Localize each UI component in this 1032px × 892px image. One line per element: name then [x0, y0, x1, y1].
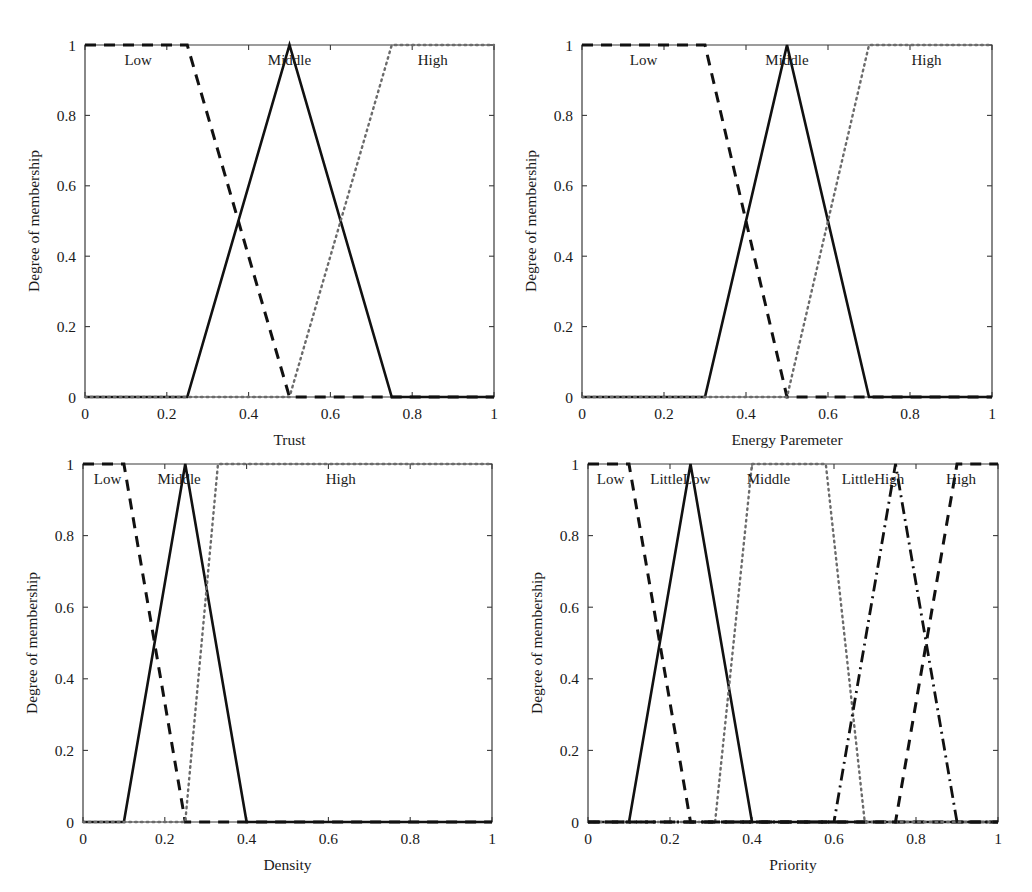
plot-frame: [582, 45, 992, 397]
chart-panel-energy-paremeter: 00.20.40.60.8100.20.40.60.81LowMiddleHig…: [514, 15, 1008, 459]
y-tick-label: 0.8: [560, 527, 580, 544]
y-tick-label: 0.8: [57, 107, 77, 124]
chart-panel-priority: 00.20.40.60.8100.20.40.60.81LowLittleLow…: [520, 434, 1014, 884]
membership-curve-low: [85, 45, 494, 397]
y-axis-title: Degree of membership: [522, 150, 539, 292]
y-tick-label: 0.6: [55, 599, 75, 616]
x-tick-label: 0.8: [403, 405, 423, 422]
x-tick-label: 0.4: [736, 405, 756, 422]
y-tick-label: 0.4: [560, 670, 580, 687]
membership-curve-low: [582, 45, 992, 397]
x-tick-label: 1: [490, 405, 498, 422]
y-tick-label: 1: [565, 37, 573, 54]
y-tick-label: 0.8: [554, 107, 574, 124]
x-tick-label: 0: [578, 405, 586, 422]
plot-frame: [85, 45, 494, 397]
x-tick-label: 0.4: [239, 405, 259, 422]
x-tick-label: 0.2: [157, 405, 176, 422]
y-tick-label: 0.6: [57, 177, 77, 194]
x-tick-label: 0: [584, 830, 592, 847]
y-tick-label: 1: [68, 37, 76, 54]
x-tick-label: 0.6: [319, 830, 339, 847]
curve-label-low: Low: [630, 52, 658, 68]
y-tick-label: 0: [565, 389, 573, 406]
x-tick-label: 0.4: [742, 830, 762, 847]
y-axis-title: Degree of membership: [528, 572, 545, 714]
membership-curve-middle: [582, 45, 992, 397]
curve-label-high: High: [946, 471, 977, 487]
y-tick-label: 0: [68, 389, 76, 406]
chart-panel-density: 00.20.40.60.8100.20.40.60.81LowMiddleHig…: [15, 434, 508, 884]
x-tick-label: 0.8: [906, 830, 926, 847]
chart-panel-trust: 00.20.40.60.8100.20.40.60.81LowMiddleHig…: [17, 15, 510, 459]
membership-curve-high: [85, 45, 494, 397]
curve-label-middle: Middle: [268, 52, 312, 68]
membership-curve-low: [588, 464, 998, 822]
y-axis-title: Degree of membership: [23, 572, 40, 714]
fuzzy-membership-figure: 00.20.40.60.8100.20.40.60.81LowMiddleHig…: [0, 0, 1032, 892]
x-tick-label: 0.6: [818, 405, 838, 422]
y-tick-label: 0.4: [57, 248, 77, 265]
x-tick-label: 1: [988, 405, 996, 422]
x-tick-label: 0.6: [824, 830, 844, 847]
curve-label-high: High: [418, 52, 449, 68]
plot-frame: [83, 464, 492, 822]
y-tick-label: 0.2: [560, 742, 579, 759]
y-tick-label: 0.8: [55, 527, 75, 544]
x-tick-label: 0.2: [155, 830, 174, 847]
curve-label-high: High: [326, 471, 357, 487]
curve-label-middle: Middle: [157, 471, 201, 487]
x-tick-label: 0.2: [660, 830, 679, 847]
x-tick-label: 0.8: [401, 830, 421, 847]
curve-label-middle: Middle: [747, 471, 791, 487]
curve-label-middle: Middle: [765, 52, 809, 68]
membership-curve-middle: [83, 464, 492, 822]
y-tick-label: 0.2: [55, 742, 74, 759]
membership-curve-high: [588, 464, 998, 822]
y-tick-label: 0.2: [554, 318, 573, 335]
x-tick-label: 1: [488, 830, 496, 847]
x-axis-title: Priority: [769, 856, 817, 873]
x-tick-label: 0.8: [900, 405, 920, 422]
membership-curve-high: [582, 45, 992, 397]
y-tick-label: 0.2: [57, 318, 76, 335]
curve-label-low: Low: [124, 52, 152, 68]
y-tick-label: 1: [571, 456, 579, 473]
y-tick-label: 1: [66, 456, 74, 473]
membership-curve-middle: [85, 45, 494, 397]
x-tick-label: 1: [994, 830, 1002, 847]
curve-label-low: Low: [597, 471, 625, 487]
x-axis-title: Density: [263, 856, 311, 873]
x-tick-label: 0: [81, 405, 89, 422]
x-tick-label: 0.4: [237, 830, 257, 847]
y-tick-label: 0: [66, 814, 74, 831]
membership-curve-littlelow: [588, 464, 998, 822]
membership-curve-middle: [588, 464, 998, 822]
y-tick-label: 0.6: [560, 599, 580, 616]
curve-label-littlehigh: LittleHigh: [842, 471, 905, 487]
y-tick-label: 0.4: [55, 670, 75, 687]
y-tick-label: 0.4: [554, 248, 574, 265]
y-axis-title: Degree of membership: [25, 150, 42, 292]
curve-label-low: Low: [94, 471, 122, 487]
x-tick-label: 0.2: [654, 405, 673, 422]
x-tick-label: 0: [79, 830, 87, 847]
membership-curve-littlehigh: [588, 464, 998, 822]
curve-label-high: High: [911, 52, 942, 68]
membership-curve-low: [83, 464, 492, 822]
y-tick-label: 0.6: [554, 177, 574, 194]
curve-label-littlelow: LittleLow: [650, 471, 710, 487]
membership-curve-high: [83, 464, 492, 822]
plot-frame: [588, 464, 998, 822]
y-tick-label: 0: [571, 814, 579, 831]
x-tick-label: 0.6: [321, 405, 341, 422]
